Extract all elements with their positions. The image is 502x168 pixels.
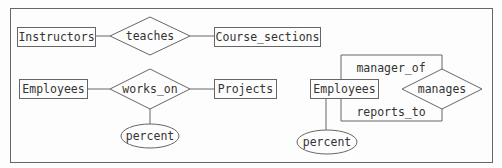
- relationship-label: teaches: [126, 29, 174, 43]
- entity-label: Course_sections: [216, 30, 320, 44]
- entity-employees: Employees: [20, 80, 88, 99]
- attribute-label: percent: [126, 129, 174, 143]
- relationship-manages: manages: [402, 69, 482, 109]
- entity-employees-recursive: Employees: [311, 80, 379, 99]
- entity-label: Projects: [218, 82, 273, 96]
- entity-course-sections: Course_sections: [215, 28, 321, 47]
- relationship-label: manages: [418, 82, 466, 96]
- relationship-works-on: works_on: [110, 69, 190, 109]
- attribute-percent-recursive: percent: [297, 130, 357, 154]
- role-label-manager-of: manager_of: [356, 61, 425, 75]
- entity-instructors: Instructors: [18, 28, 96, 47]
- attribute-percent: percent: [121, 124, 179, 148]
- entity-label: Employees: [313, 82, 375, 96]
- relationship-label: works_on: [122, 82, 177, 96]
- relationship-teaches: teaches: [110, 17, 190, 55]
- er-diagram: Instructors teaches Course_sections Empl…: [0, 0, 502, 168]
- attribute-label: percent: [303, 135, 351, 149]
- entity-label: Instructors: [18, 30, 94, 44]
- entity-projects: Projects: [215, 80, 277, 99]
- entity-label: Employees: [22, 82, 84, 96]
- role-label-reports-to: reports_to: [356, 105, 425, 119]
